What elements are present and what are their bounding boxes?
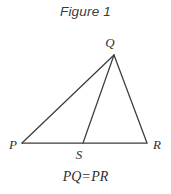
triangle-svg: P Q R S xyxy=(0,0,171,194)
caption-relation-sign: = xyxy=(81,169,91,184)
vertex-label-p: P xyxy=(8,137,17,152)
figure-caption: PQ=PR xyxy=(0,168,171,186)
geometry-diagram: P Q R S xyxy=(0,0,171,194)
side-qr-line xyxy=(114,55,147,143)
caption-left-term: PQ xyxy=(63,169,82,184)
cevian-qs-line xyxy=(83,55,114,143)
figure-container: Figure 1 P Q R S PQ=PR xyxy=(0,0,171,194)
vertex-label-r: R xyxy=(152,137,161,152)
vertex-label-s: S xyxy=(76,147,83,162)
vertex-label-q: Q xyxy=(105,35,115,50)
side-pq-line xyxy=(22,55,114,143)
caption-right-term: PR xyxy=(91,169,108,184)
